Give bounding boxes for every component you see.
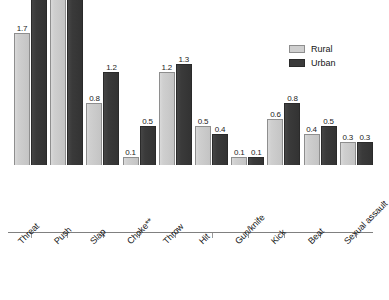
bar-rural: 0.6: [267, 119, 283, 166]
bar-value-label: 0.5: [142, 117, 153, 126]
bar-value-label: 1.3: [179, 55, 190, 64]
bar-rural: 1.2: [159, 72, 175, 165]
bar-value-label: 1.2: [162, 63, 173, 72]
legend-swatch-rural-icon: [289, 45, 305, 53]
bar-value-label: 0.5: [323, 117, 334, 126]
bar-rural: 0.3: [340, 142, 356, 165]
bar-urban: 1.2: [103, 72, 119, 165]
bar-urban: 2.2: [31, 0, 47, 165]
bar-value-label: 0.1: [251, 148, 262, 157]
legend-item-rural: Rural: [289, 42, 336, 55]
bar-value-label: 0.6: [270, 110, 281, 119]
legend-item-urban: Urban: [289, 56, 336, 69]
bar-urban: 0.4: [212, 134, 228, 165]
bar-urban: 0.1: [248, 157, 264, 165]
bar-value-label: 0.5: [198, 117, 209, 126]
bar-rural: 0.8: [86, 103, 102, 165]
bar-urban: 0.8: [284, 103, 300, 165]
legend-swatch-urban-icon: [289, 59, 305, 67]
bar-rural: 0.4: [304, 134, 320, 165]
bar-rural: 0.5: [195, 126, 211, 165]
chart-legend: Rural Urban: [289, 42, 336, 70]
bar-urban: 0.5: [140, 126, 156, 165]
bar-value-label: 0.3: [343, 133, 354, 142]
bar-value-label: 0.1: [234, 148, 245, 157]
bar-urban: 0.3: [357, 142, 373, 165]
legend-label-urban: Urban: [311, 58, 336, 68]
bar-rural: 2.7: [50, 0, 66, 165]
bar-urban: 2.7: [67, 0, 83, 165]
bar-value-label: 1.7: [17, 24, 28, 33]
x-axis-label: Hit: [197, 231, 212, 246]
bar-value-label: 0.8: [287, 94, 298, 103]
legend-label-rural: Rural: [311, 44, 333, 54]
bar-rural: 0.1: [123, 157, 139, 165]
bar-value-label: 1.2: [106, 63, 117, 72]
bar-rural: 1.7: [14, 33, 30, 165]
bar-urban: 1.3: [176, 64, 192, 165]
x-axis-tick: [212, 233, 213, 238]
bar-value-label: 0.4: [306, 125, 317, 134]
plot-area: 1.72.22.72.70.81.20.10.51.21.30.50.40.10…: [0, 0, 385, 233]
bar-value-label: 0.3: [360, 133, 371, 142]
bar-urban: 0.5: [321, 126, 337, 165]
bar-value-label: 0.1: [125, 148, 136, 157]
bar-rural: 0.1: [231, 157, 247, 165]
bar-value-label: 0.8: [89, 94, 100, 103]
bar-value-label: 0.4: [215, 125, 226, 134]
